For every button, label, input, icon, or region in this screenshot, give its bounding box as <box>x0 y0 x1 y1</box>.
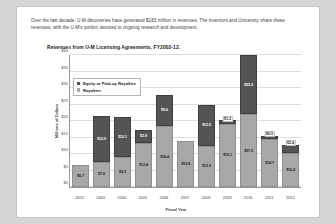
x-axis-tick-label: 2009 <box>219 195 236 200</box>
document-sheet: Over the last decade, U-M discoveries ha… <box>17 7 319 217</box>
bar-value-label-equity: $0.9 <box>264 131 274 137</box>
bar-value-label-royalties: $19.1 <box>223 153 232 157</box>
bar-segment-equity[interactable]: $13.9 <box>93 116 110 162</box>
bar-column[interactable]: $3.9$13.4 <box>135 55 152 187</box>
bar-value-label-royalties: $12.5 <box>202 164 211 168</box>
x-axis-tick-label: 2007 <box>176 195 193 200</box>
chart-legend: Equity or Paid-up Royalties Royalties <box>73 78 141 96</box>
x-axis-tick-label: 2010 <box>240 195 257 200</box>
bar-segment-royalties[interactable]: $6.7 <box>72 165 89 187</box>
bar-column[interactable]: $13.8 <box>177 55 194 187</box>
y-axis-tick-label: $35 <box>49 64 68 69</box>
bar-value-label-royalties: $27.5 <box>244 149 253 153</box>
intro-paragraph: Over the last decade, U-M discoveries ha… <box>31 17 305 31</box>
bar-column[interactable]: $1.2$19.1 <box>219 55 236 187</box>
bar-column[interactable]: $12.5$12.5 <box>198 55 215 187</box>
legend-item-royalties: Royalties <box>77 88 136 93</box>
bar-column[interactable]: $22.3$27.5 <box>240 55 257 187</box>
bar-segment-royalties[interactable]: $10.4 <box>282 153 299 187</box>
y-axis-tick-label: $15 <box>49 130 68 135</box>
bar-segment-royalties[interactable]: $12.5 <box>198 146 215 187</box>
y-axis-tick-label: $20 <box>49 114 68 119</box>
bar-value-label-royalties: $13.8 <box>181 162 190 166</box>
page-background: Over the last decade, U-M discoveries ha… <box>0 0 336 224</box>
legend-label-equity: Equity or Paid-up Royalties <box>83 81 136 86</box>
bar-column[interactable]: $2.4$10.4 <box>282 55 299 187</box>
y-axis-tick-label: $10 <box>49 147 68 152</box>
bar-value-label-equity: $3.9 <box>140 134 147 138</box>
x-axis-tick-label: 2011 <box>261 195 278 200</box>
bar-segment-royalties[interactable]: $27.5 <box>240 114 257 187</box>
x-axis-ticks: 2002200320042005200620072008200920102011… <box>69 195 301 204</box>
y-axis-tick-label: $5 <box>49 163 68 168</box>
bar-value-label-royalties: $18.4 <box>160 155 169 159</box>
x-axis-tick-label: 2002 <box>71 195 88 200</box>
bar-value-label-equity: $9.6 <box>161 108 168 112</box>
bar-column[interactable]: $0.9$14.7 <box>261 55 278 187</box>
bar-group: $6.7$13.9$7.6$12.1$9.2$3.9$13.4$9.6$18.4… <box>70 55 301 187</box>
legend-swatch-royalties <box>77 88 80 91</box>
x-axis-title: Fiscal Year <box>47 207 305 212</box>
bar-value-label-royalties: $9.2 <box>119 170 126 174</box>
bar-value-label-royalties: $10.4 <box>286 168 295 172</box>
x-axis-tick-label: 2012 <box>282 195 299 200</box>
bar-value-label-royalties: $13.4 <box>139 163 148 167</box>
bar-segment-equity[interactable]: $12.5 <box>198 105 215 146</box>
bar-segment-royalties[interactable]: $7.6 <box>93 162 110 187</box>
bar-segment-equity[interactable]: $12.1 <box>114 117 131 157</box>
x-axis-tick-label: 2006 <box>155 195 172 200</box>
bar-segment-equity[interactable]: $2.4 <box>282 145 299 153</box>
bar-value-label-equity: $12.5 <box>202 123 211 127</box>
bar-segment-equity[interactable]: $22.3 <box>240 55 257 114</box>
y-axis-tick-label: $30 <box>49 81 68 86</box>
bar-value-label-equity: $13.9 <box>97 137 106 141</box>
bar-value-label-royalties: $7.6 <box>98 172 105 176</box>
x-axis-tick-label: 2003 <box>92 195 109 200</box>
bar-segment-equity[interactable]: $3.9 <box>135 130 152 143</box>
plot-area: Millions of Dollars $0$5$10$15$20$25$30$… <box>69 55 301 188</box>
y-axis-tick-label: $40 <box>49 48 68 53</box>
bar-value-label-equity: $1.2 <box>222 116 232 122</box>
legend-item-equity: Equity or Paid-up Royalties <box>77 81 136 86</box>
y-axis-tick-label: $0 <box>49 180 68 185</box>
bar-segment-royalties[interactable]: $13.8 <box>177 141 194 187</box>
bar-segment-royalties[interactable]: $19.1 <box>219 124 236 187</box>
bar-column[interactable]: $9.6$18.4 <box>156 55 173 187</box>
bar-value-label-equity: $12.1 <box>118 135 127 139</box>
bar-segment-equity[interactable]: $9.6 <box>156 95 173 127</box>
legend-label-royalties: Royalties <box>83 88 101 93</box>
bar-value-label-equity: $22.3 <box>244 83 253 87</box>
bar-segment-royalties[interactable]: $9.2 <box>114 157 131 187</box>
legend-swatch-equity <box>77 82 80 85</box>
x-axis-tick-label: 2005 <box>134 195 151 200</box>
x-axis-tick-label: 2004 <box>113 195 130 200</box>
bar-segment-royalties[interactable]: $14.7 <box>261 139 278 188</box>
bar-segment-royalties[interactable]: $18.4 <box>156 126 173 187</box>
bar-column[interactable]: $6.7 <box>72 55 89 187</box>
revenue-chart: Millions of Dollars $0$5$10$15$20$25$30$… <box>47 52 305 210</box>
bar-value-label-royalties: $14.7 <box>265 161 274 165</box>
bar-value-label-equity: $2.4 <box>285 140 295 146</box>
y-axis-tick-label: $25 <box>49 97 68 102</box>
bar-column[interactable]: $12.1$9.2 <box>114 55 131 187</box>
bar-segment-royalties[interactable]: $13.4 <box>135 143 152 187</box>
bar-column[interactable]: $13.9$7.6 <box>93 55 110 187</box>
bar-value-label-royalties: $6.7 <box>77 174 84 178</box>
x-axis-tick-label: 2008 <box>198 195 215 200</box>
